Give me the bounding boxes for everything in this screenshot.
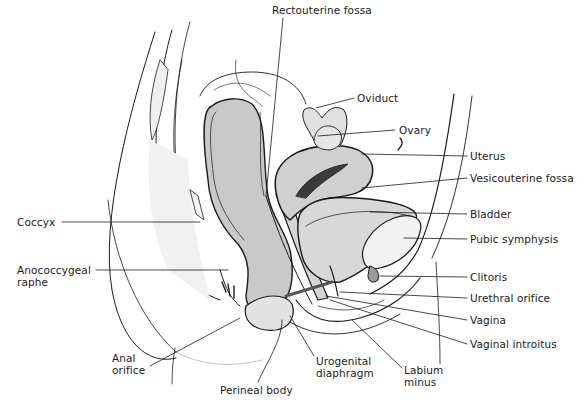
label-anococcygeal-raphe-line1: Anococcygeal <box>17 264 91 276</box>
label-ovary: Ovary <box>399 124 431 136</box>
label-clitoris: Clitoris <box>470 271 507 283</box>
leader-clitoris <box>380 276 467 277</box>
anal-canal <box>220 270 240 306</box>
label-vagina: Vagina <box>470 314 506 326</box>
label-perineal-body: Perineal body <box>220 384 293 396</box>
label-rectouterine-fossa: Rectouterine fossa <box>272 4 372 16</box>
ovary <box>314 126 342 150</box>
label-labium-minus: Labium minus <box>404 364 443 388</box>
leader-urogenital-diaphragm <box>290 316 314 356</box>
label-anal-orifice-line2: orifice <box>112 364 145 376</box>
label-bladder: Bladder <box>470 208 511 220</box>
label-vesicouterine-fossa: Vesicouterine fossa <box>470 172 574 184</box>
leader-uterus <box>362 154 467 156</box>
label-uterus: Uterus <box>470 150 505 162</box>
label-urogenital-diaphragm: Urogenital diaphragm <box>316 355 374 379</box>
leader-vaginal-introitus <box>330 300 467 344</box>
label-coccyx: Coccyx <box>17 216 55 228</box>
label-anococcygeal-raphe-line2: raphe <box>17 276 91 288</box>
label-anal-orifice: Anal orifice <box>112 352 145 376</box>
perineal-body <box>245 296 293 330</box>
label-pubic-symphysis: Pubic symphysis <box>470 233 558 245</box>
leader-anal-orifice <box>150 318 240 366</box>
label-vaginal-introitus: Vaginal introitus <box>470 338 557 350</box>
label-anococcygeal-raphe: Anococcygeal raphe <box>17 264 91 288</box>
label-labium-minus-line2: minus <box>404 376 443 388</box>
leader-oviduct <box>316 98 354 108</box>
label-oviduct: Oviduct <box>357 92 398 104</box>
label-anal-orifice-line1: Anal <box>112 352 145 364</box>
label-urogenital-diaphragm-line2: diaphragm <box>316 367 374 379</box>
leader-urethral-orifice <box>340 292 467 298</box>
label-labium-minus-line1: Labium <box>404 364 443 376</box>
leader-vesicouterine-fossa <box>362 178 467 188</box>
label-urogenital-diaphragm-line1: Urogenital <box>316 355 374 367</box>
label-urethral-orifice: Urethral orifice <box>470 292 550 304</box>
